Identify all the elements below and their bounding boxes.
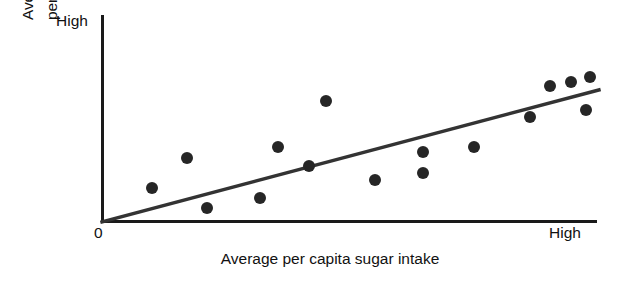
data-point: [584, 71, 596, 83]
x-axis-line: [101, 220, 597, 223]
data-point: [468, 141, 480, 153]
x-axis-high-label: High: [549, 224, 581, 242]
data-point: [565, 76, 577, 88]
y-axis-title-line-1: Average no. of caries: [18, 0, 38, 20]
data-point: [544, 80, 556, 92]
scatter-plot-figure: Average no. of caries per person per yr …: [0, 0, 622, 291]
x-axis-title-text: Average per capita sugar intake: [221, 250, 440, 268]
data-point: [146, 182, 158, 194]
data-point: [417, 146, 429, 158]
data-point: [254, 192, 266, 204]
data-point: [272, 141, 284, 153]
data-point: [181, 152, 193, 164]
data-point: [417, 167, 429, 179]
data-point: [524, 111, 536, 123]
y-axis-title: Average no. of caries per person per yr: [0, 0, 100, 240]
x-axis-title: Average per capita sugar intake: [0, 250, 622, 268]
data-point: [320, 95, 332, 107]
y-axis-line: [101, 15, 104, 223]
data-point: [369, 174, 381, 186]
y-axis-high-label: High: [56, 12, 88, 30]
trend-line: [102, 90, 599, 222]
data-point: [303, 160, 315, 172]
data-point: [201, 202, 213, 214]
origin-label: 0: [94, 224, 103, 242]
data-point: [580, 104, 592, 116]
